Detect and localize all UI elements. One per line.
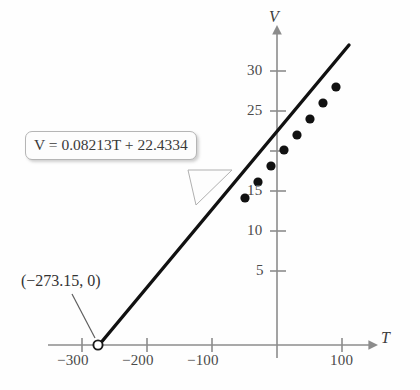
equation-callout-label: V = 0.08213T + 22.4334 <box>25 131 197 160</box>
data-point <box>305 114 314 123</box>
x-tick-label-neg100: −100 <box>187 352 219 369</box>
x-tick-label-neg300: −300 <box>57 352 89 369</box>
y-tick-label-10: 10 <box>247 222 262 239</box>
figure-container: −300 −200 −100 100 30 25 15 10 5 T V V =… <box>0 0 420 390</box>
intercept-point-label: (−273.15, 0) <box>21 272 101 290</box>
regression-line <box>99 45 349 345</box>
y-tick-label-30: 30 <box>247 62 262 79</box>
data-point <box>318 98 327 107</box>
callout-tail <box>188 170 232 205</box>
data-point <box>331 82 340 91</box>
x-tick-label-100: 100 <box>330 352 353 369</box>
y-axis-ticks <box>270 71 286 271</box>
open-point-marker <box>93 340 102 349</box>
y-tick-label-5: 5 <box>256 262 264 279</box>
y-tick-label-25: 25 <box>247 102 262 119</box>
x-axis-name: T <box>381 329 390 347</box>
data-point <box>292 130 301 139</box>
y-axis-name: V <box>269 8 279 26</box>
x-tick-label-neg200: −200 <box>122 352 154 369</box>
chart-canvas <box>0 0 420 390</box>
y-tick-label-15: 15 <box>247 182 262 199</box>
data-point <box>279 145 288 154</box>
data-point <box>266 161 275 170</box>
intercept-leader-line <box>72 294 95 338</box>
